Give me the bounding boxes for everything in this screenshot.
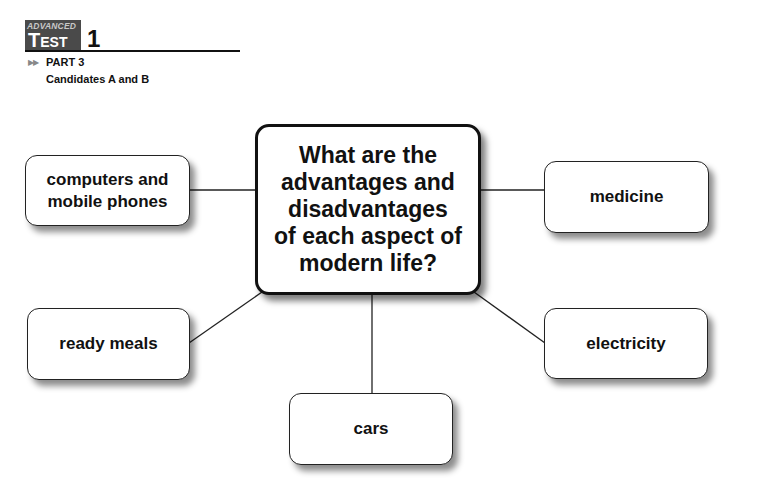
connector-ready-meals bbox=[189, 292, 262, 343]
topic-box-computers: computers and mobile phones bbox=[25, 155, 190, 226]
topic-box-ready-meals: ready meals bbox=[27, 308, 190, 380]
topic-label-cars: cars bbox=[354, 418, 389, 440]
topic-label-ready-meals: ready meals bbox=[59, 333, 157, 355]
topic-label-medicine: medicine bbox=[590, 186, 664, 208]
connector-electricity bbox=[474, 292, 545, 343]
topic-label-electricity: electricity bbox=[586, 333, 665, 355]
topic-box-medicine: medicine bbox=[544, 161, 709, 233]
central-question: What are the advantages and disadvantage… bbox=[274, 142, 462, 277]
topic-label-computers: computers and mobile phones bbox=[47, 169, 169, 213]
topic-box-electricity: electricity bbox=[544, 308, 708, 379]
central-question-box: What are the advantages and disadvantage… bbox=[255, 124, 481, 295]
topic-box-cars: cars bbox=[289, 393, 453, 465]
